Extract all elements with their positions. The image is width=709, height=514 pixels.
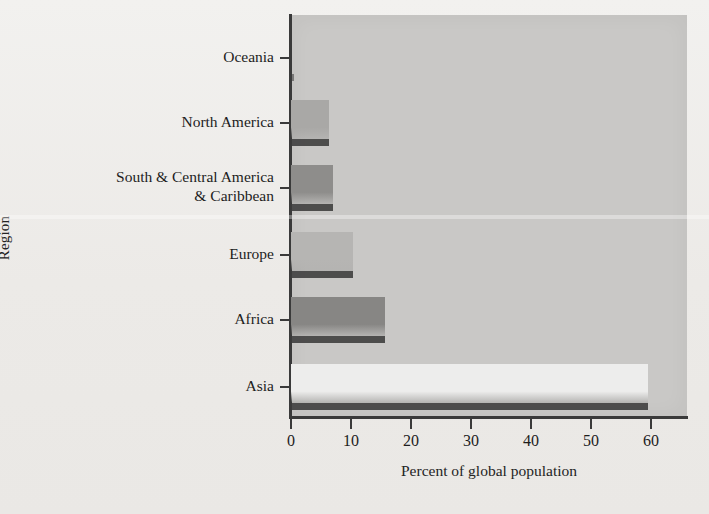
bar-body (291, 100, 329, 139)
x-axis-spine (289, 416, 688, 419)
x-tick-mark (650, 418, 652, 429)
bar-body (291, 232, 353, 271)
bar-asia (291, 364, 648, 410)
bar-base-shadow (291, 204, 333, 211)
x-tick-label: 20 (387, 432, 435, 450)
x-tick-label: 50 (567, 432, 615, 450)
x-tick-label: 10 (327, 432, 375, 450)
x-tick-mark (410, 418, 412, 429)
bar-oceania (291, 35, 294, 81)
y-tick-mark (280, 386, 291, 388)
bar-south-central-america (291, 165, 333, 211)
y-tick-label: South & Central America & Caribbean (116, 167, 274, 205)
x-axis-title: Percent of global population (291, 462, 687, 480)
y-tick-mark (280, 254, 291, 256)
y-tick-label: Asia (246, 376, 274, 395)
bar-body (291, 297, 385, 336)
bar-base-shadow (291, 139, 329, 146)
bar-chart-figure: Region OceaniaNorth AmericaSouth & Centr… (0, 0, 709, 514)
x-tick-mark (470, 418, 472, 429)
x-tick-label: 40 (507, 432, 555, 450)
bar-base-shadow (291, 403, 648, 410)
bar-base-shadow (291, 74, 294, 81)
bar-north-america (291, 100, 329, 146)
bar-body (291, 165, 333, 204)
y-tick-label: North America (181, 112, 274, 131)
bar-europe (291, 232, 353, 278)
bar-base-shadow (291, 271, 353, 278)
x-tick-mark (530, 418, 532, 429)
x-tick-label: 60 (627, 432, 675, 450)
y-tick-mark (280, 187, 291, 189)
x-tick-label: 0 (267, 432, 315, 450)
bar-base-shadow (291, 336, 385, 343)
y-tick-mark (280, 319, 291, 321)
y-tick-label: Oceania (223, 47, 274, 66)
y-tick-label: Europe (229, 244, 274, 263)
bar-body (291, 364, 648, 403)
y-tick-mark (280, 57, 291, 59)
y-tick-label: Africa (234, 309, 274, 328)
bar-africa (291, 297, 385, 343)
x-tick-mark (590, 418, 592, 429)
x-tick-mark (290, 418, 292, 429)
y-tick-mark (280, 122, 291, 124)
y-axis-title: Region (0, 178, 13, 298)
plot-area (291, 15, 687, 417)
x-tick-label: 30 (447, 432, 495, 450)
x-tick-mark (350, 418, 352, 429)
